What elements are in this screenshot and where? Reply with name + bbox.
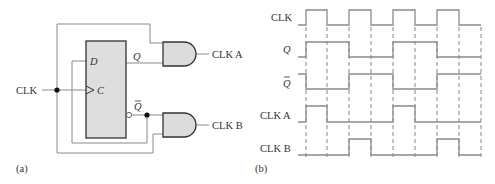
inversion-bubble: [126, 112, 131, 117]
d-pin-label: D: [89, 56, 98, 67]
signal-label-qbar: Q: [283, 78, 291, 89]
and-gate-a: [163, 42, 196, 66]
junction-dot-qbar: [144, 112, 149, 117]
panel-a-label: (a): [16, 163, 28, 175]
clk-a-output-label: CLK A: [212, 49, 243, 60]
signal-label-clk-a: CLK A: [260, 110, 291, 121]
waveform-clk-b: [298, 139, 481, 155]
q-pin-label: Q: [133, 51, 141, 62]
and-gate-b: [163, 113, 196, 137]
qbar-pin-label: Q: [134, 101, 142, 112]
signal-label-clk-b: CLK B: [260, 143, 291, 154]
figure: CLK D C Q Q CLK A CLK B (a) CLK Q Q CLK …: [0, 0, 495, 184]
signal-label-clk: CLK: [271, 12, 292, 23]
signal-label-q: Q: [283, 44, 291, 55]
c-pin-label: C: [97, 85, 105, 96]
waveform-clk: [298, 10, 481, 25]
waveform-clk-a: [298, 106, 481, 122]
waveform-qbar: [298, 74, 481, 89]
timing-diagram: [298, 10, 481, 157]
clk-b-output-label: CLK B: [212, 120, 243, 131]
junction-dot-clk: [54, 87, 59, 92]
waveform-q: [298, 42, 481, 57]
clk-input-label: CLK: [16, 85, 37, 96]
panel-b-label: (b): [255, 163, 268, 175]
